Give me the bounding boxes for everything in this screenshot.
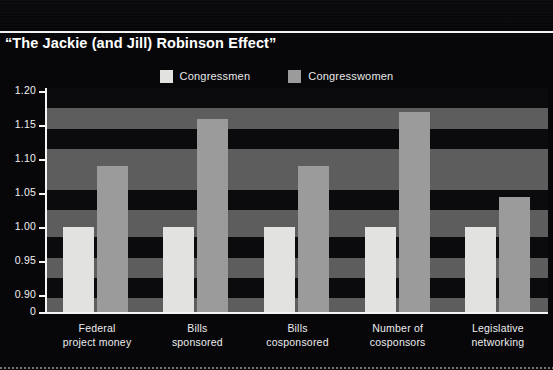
bar-group — [347, 88, 448, 312]
legend-swatch-congressmen — [160, 70, 173, 83]
y-axis-tick-mark — [39, 312, 45, 314]
bar-congresswomen[interactable] — [399, 112, 430, 312]
bar-congresswomen[interactable] — [197, 119, 228, 312]
x-axis-category-line: Bills — [147, 322, 247, 336]
y-axis-tick-mark — [39, 227, 45, 229]
y-axis-tick-mark — [39, 261, 45, 263]
y-axis-tick-label: 1.20 — [0, 84, 36, 96]
y-axis-tick-label: 1.15 — [0, 118, 36, 130]
x-axis-labels: Federalproject moneyBillssponsoredBillsc… — [47, 322, 548, 362]
x-axis-category-line: Legislative — [448, 322, 548, 336]
bar-group — [447, 88, 548, 312]
legend-label-congressmen: Congressmen — [180, 70, 251, 82]
legend-item-congressmen: Congressmen — [160, 70, 251, 83]
chart-plot-wrapper: 1.201.151.101.051.000.950.900 — [0, 88, 553, 320]
y-axis-tick-mark — [39, 295, 45, 297]
bar-congressmen[interactable] — [264, 227, 295, 312]
page-header-background — [0, 0, 553, 31]
x-axis-category-label: Number ofcosponsors — [348, 322, 448, 362]
bar-group — [246, 88, 347, 312]
legend-item-congresswomen: Congresswomen — [288, 70, 393, 83]
legend-swatch-congresswomen — [288, 70, 301, 83]
bar-congresswomen[interactable] — [298, 166, 329, 312]
bar-congressmen[interactable] — [365, 227, 396, 312]
y-axis-tick-label: 0.95 — [0, 254, 36, 266]
x-axis-category-label: Billscosponsored — [247, 322, 347, 362]
bar-congresswomen[interactable] — [499, 197, 530, 312]
x-axis-category-line: networking — [448, 336, 548, 350]
bar-congressmen[interactable] — [465, 227, 496, 312]
bar-congressmen[interactable] — [63, 227, 94, 312]
bar-group — [45, 88, 146, 312]
y-axis-tick-label: 0 — [0, 305, 36, 317]
x-axis-category-label: Billssponsored — [147, 322, 247, 362]
chart-plot-area — [45, 88, 548, 312]
chart-legend: Congressmen Congresswomen — [0, 68, 553, 84]
title-divider — [0, 31, 553, 33]
x-axis-category-label: Federalproject money — [47, 322, 147, 362]
y-axis-line — [45, 88, 47, 314]
y-axis-tick-label: 1.00 — [0, 220, 36, 232]
legend-label-congresswomen: Congresswomen — [308, 70, 393, 82]
y-axis-tick-label: 0.90 — [0, 288, 36, 300]
y-axis-tick-label: 1.10 — [0, 152, 36, 164]
x-axis-category-line: Bills — [247, 322, 347, 336]
x-axis-category-line: Federal — [47, 322, 147, 336]
y-axis-tick-mark — [39, 91, 45, 93]
y-axis-tick-mark — [39, 193, 45, 195]
chart-bars-layer — [45, 88, 548, 312]
x-axis-category-line: project money — [47, 336, 147, 350]
x-axis-category-line: cosponsors — [348, 336, 448, 350]
bar-group — [146, 88, 247, 312]
x-axis-category-line: Number of — [348, 322, 448, 336]
bar-congressmen[interactable] — [163, 227, 194, 312]
x-axis-line — [45, 312, 548, 314]
chart-title: “The Jackie (and Jill) Robinson Effect” — [5, 35, 276, 51]
x-axis-category-line: sponsored — [147, 336, 247, 350]
y-axis-tick-mark — [39, 125, 45, 127]
y-axis-tick-label: 1.05 — [0, 186, 36, 198]
y-axis-tick-mark — [39, 159, 45, 161]
x-axis-category-line: cosponsored — [247, 336, 347, 350]
x-axis-category-label: Legislativenetworking — [448, 322, 548, 362]
bar-congresswomen[interactable] — [97, 166, 128, 312]
bottom-dotted-rule — [0, 367, 553, 369]
